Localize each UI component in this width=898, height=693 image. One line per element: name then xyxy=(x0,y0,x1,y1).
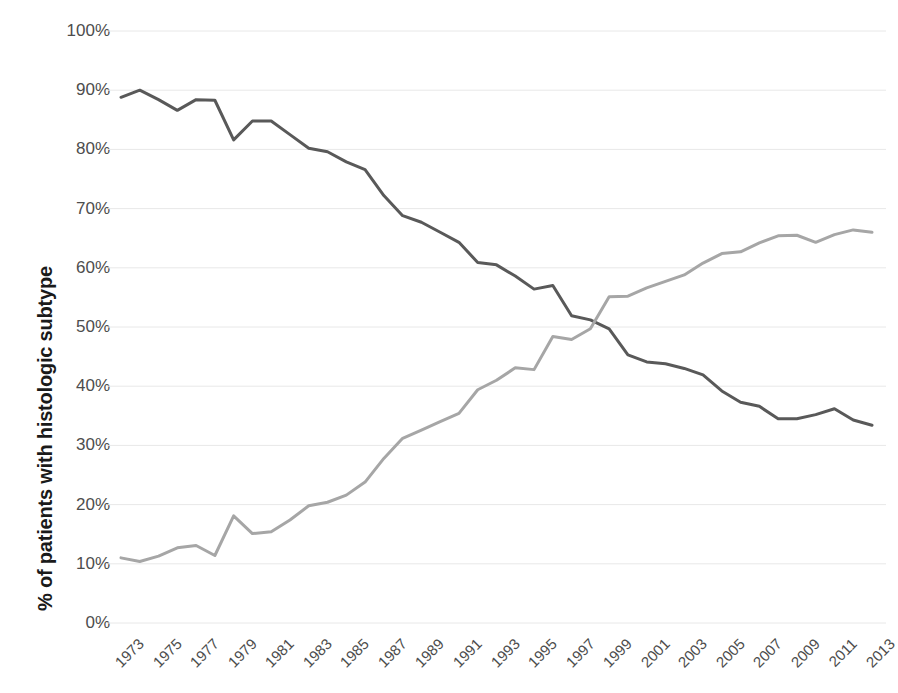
x-axis-tick-labels: 1973197519771979198119831985198719891991… xyxy=(0,0,894,693)
line-chart: % of patients with histologic subtype 10… xyxy=(0,0,894,693)
